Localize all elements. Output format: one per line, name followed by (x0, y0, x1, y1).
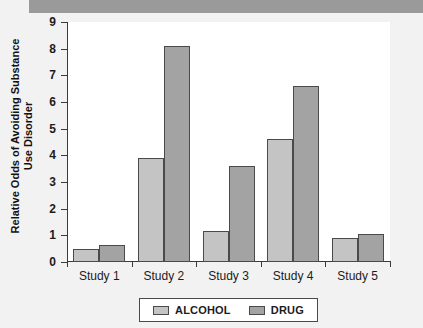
y-tick-label-text: 8 (38, 43, 56, 55)
y-tick-label: 3 (38, 176, 56, 188)
legend-label-alcohol: ALCOHOL (175, 304, 231, 316)
bar-study-2-drug (164, 46, 190, 262)
y-tick-label: 1 (38, 229, 56, 241)
chart-legend: ALCOHOL DRUG (139, 298, 318, 322)
y-tick-label: 4 (38, 149, 56, 161)
y-tick-mark (61, 182, 67, 183)
x-tick-mark (67, 262, 68, 267)
legend-label-drug: DRUG (271, 304, 304, 316)
y-tick-label-text: 3 (38, 176, 56, 188)
x-tick-mark (390, 262, 391, 267)
x-tick-mark (325, 262, 326, 267)
x-tick-label: Study 3 (194, 270, 264, 282)
y-tick-label-text: 2 (38, 203, 56, 215)
y-axis-line (67, 22, 68, 262)
y-tick-label: 0 (38, 256, 56, 268)
x-tick-label: Study 2 (129, 270, 199, 282)
bar-chart-figure: Relative Odds of Avoiding Substance Use … (0, 13, 423, 328)
y-tick-label-text: 1 (38, 229, 56, 241)
y-tick-label-text: 6 (38, 96, 56, 108)
y-tick-mark (61, 129, 67, 130)
y-axis-title: Relative Odds of Avoiding Substance Use … (9, 36, 35, 236)
legend-entry-alcohol: ALCOHOL (153, 304, 231, 316)
y-tick-label: 9 (38, 16, 56, 28)
x-tick-mark (132, 262, 133, 267)
y-tick-label: 5 (38, 123, 56, 135)
bar-study-4-drug (293, 86, 319, 262)
y-tick-mark (61, 102, 67, 103)
y-tick-label-text: 5 (38, 123, 56, 135)
y-tick-label-text: 4 (38, 149, 56, 161)
y-tick-label-text: 0 (38, 256, 56, 268)
bar-study-2-alcohol (138, 158, 164, 262)
chart-page: Relative Odds of Avoiding Substance Use … (0, 0, 423, 328)
bar-study-3-drug (229, 166, 255, 262)
legend-swatch-alcohol (153, 306, 169, 315)
x-tick-label: Study 1 (64, 270, 134, 282)
bar-study-5-drug (358, 234, 384, 262)
y-tick-label: 7 (38, 69, 56, 81)
y-tick-mark (61, 22, 67, 23)
y-tick-mark (61, 49, 67, 50)
y-tick-label: 2 (38, 203, 56, 215)
bar-study-1-alcohol (73, 249, 99, 262)
bar-study-3-alcohol (203, 231, 229, 262)
x-tick-mark (196, 262, 197, 267)
bar-study-1-drug (99, 245, 125, 262)
y-tick-label-text: 9 (38, 16, 56, 28)
y-tick-label-text: 7 (38, 69, 56, 81)
legend-entry-drug: DRUG (249, 304, 304, 316)
y-tick-mark (61, 155, 67, 156)
top-banner (29, 0, 423, 13)
bar-study-4-alcohol (267, 139, 293, 262)
y-tick-mark (61, 75, 67, 76)
bar-study-5-alcohol (332, 238, 358, 262)
x-tick-label: Study 5 (323, 270, 393, 282)
y-tick-mark (61, 209, 67, 210)
y-tick-label: 6 (38, 96, 56, 108)
x-tick-label: Study 4 (258, 270, 328, 282)
y-tick-label: 8 (38, 43, 56, 55)
x-tick-mark (261, 262, 262, 267)
y-tick-mark (61, 235, 67, 236)
legend-swatch-drug (249, 306, 265, 315)
